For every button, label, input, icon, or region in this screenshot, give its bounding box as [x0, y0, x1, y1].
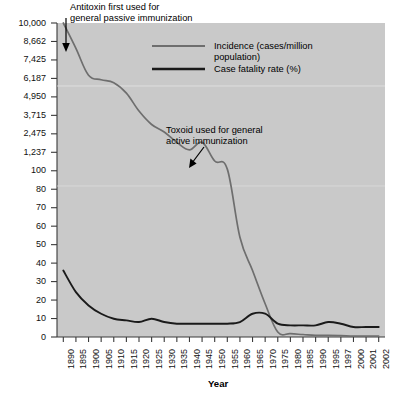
legend-label-case-fatality: Case fatality rate (%): [214, 64, 301, 75]
legend-label-incidence-line2: population): [214, 52, 313, 63]
legend-swatches: [0, 0, 400, 395]
x-axis-title: Year: [208, 378, 228, 389]
legend-label-incidence: Incidence (cases/million population): [214, 41, 313, 63]
legend-label-incidence-line1: Incidence (cases/million: [214, 41, 313, 52]
legend-label-case-fatality-line1: Case fatality rate (%): [214, 64, 301, 75]
chart-container: 10,0008,6627,4256,1874,9503,7152,4751,23…: [0, 0, 400, 395]
